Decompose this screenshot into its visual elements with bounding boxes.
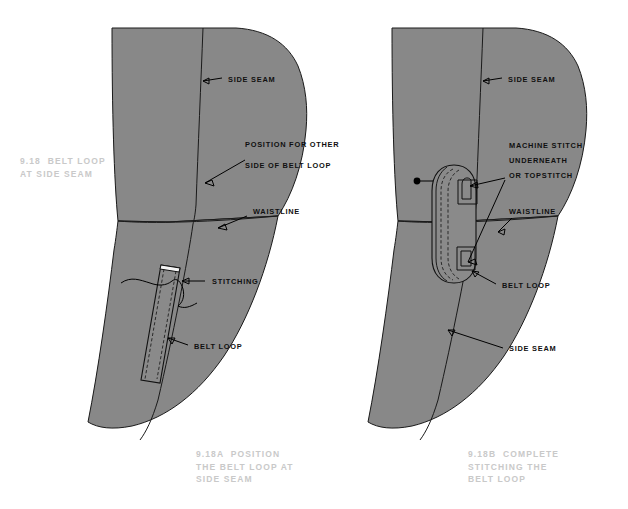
figure-a-belt-loop-label: BELT LOOP [194, 342, 243, 351]
figure-a-position-other-line1: POSITION FOR OTHER [245, 140, 339, 149]
main-figure-caption: 9.18 BELT LOOP AT SIDE SEAM [20, 155, 106, 180]
figure-b-bodice-panel [392, 28, 587, 222]
figure-a-position-other-line2: SIDE OF BELT LOOP [245, 161, 331, 170]
figure-a-bodice-panel [112, 28, 307, 222]
figure-b-belt-loop-band [432, 165, 476, 283]
figure-b-group: SIDE SEAM MACHINE STITCH UNDERNEATH OR T… [368, 28, 587, 440]
figure-b-side-seam-bottom-label: SIDE SEAM [509, 344, 556, 353]
figure-b-machine-stitch-line3: OR TOPSTITCH [509, 171, 573, 180]
figure-a-waistline-label: WAISTLINE [253, 207, 300, 216]
figure-a-group: SIDE SEAM POSITION FOR OTHER SIDE OF BEL… [88, 28, 339, 440]
figure-a-side-seam-label: SIDE SEAM [228, 75, 275, 84]
figure-b-side-seam-top-label: SIDE SEAM [508, 75, 555, 84]
figure-b-waistline-label: WAISTLINE [509, 207, 556, 216]
figure-b-machine-stitch-line1: MACHINE STITCH [509, 141, 583, 150]
illustration-page: SIDE SEAM POSITION FOR OTHER SIDE OF BEL… [0, 0, 628, 509]
figure-b-caption: 9.18B COMPLETE STITCHING THE BELT LOOP [468, 448, 559, 486]
figure-a-caption: 9.18A POSITION THE BELT LOOP AT SIDE SEA… [196, 448, 294, 486]
figure-b-machine-stitch-line2: UNDERNEATH [509, 156, 568, 165]
figure-a-stitching-label: STITCHING [212, 277, 259, 286]
figure-b-belt-loop-label: BELT LOOP [502, 281, 551, 290]
belt-loop-diagram: SIDE SEAM POSITION FOR OTHER SIDE OF BEL… [0, 0, 628, 509]
figure-a-skirt-panel [88, 216, 278, 428]
